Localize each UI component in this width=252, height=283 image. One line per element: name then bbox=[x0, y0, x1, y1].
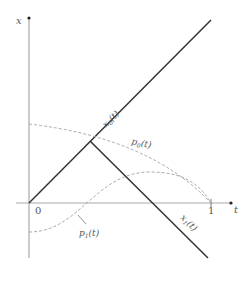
x0-line bbox=[29, 20, 211, 203]
svg-text:p0(t): p0(t) bbox=[130, 136, 153, 151]
x-axis bbox=[27, 16, 30, 258]
p0-label: p0(t) bbox=[130, 136, 153, 151]
trajectory-diagram: x t 0 1 x0(t) p0(t) x1(t) p1(t) bbox=[0, 0, 252, 283]
diagram-canvas: x t 0 1 x0(t) p0(t) x1(t) p1(t) bbox=[0, 0, 252, 283]
x-axis-label: x bbox=[16, 15, 22, 26]
p0-curve bbox=[29, 124, 211, 203]
t-axis bbox=[16, 199, 233, 207]
x1-line bbox=[90, 141, 208, 258]
svg-text:p1(t): p1(t) bbox=[79, 228, 100, 239]
p1-leader bbox=[78, 215, 86, 224]
p1-label: p1(t) bbox=[79, 228, 100, 239]
t-axis-label: t bbox=[234, 204, 239, 215]
t-one-label: 1 bbox=[208, 205, 214, 216]
origin-label: 0 bbox=[35, 205, 41, 216]
